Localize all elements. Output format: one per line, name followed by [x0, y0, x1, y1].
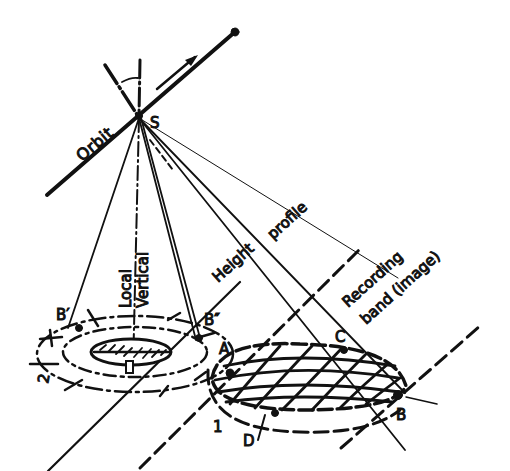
local-vertical-label-2: Vertical	[134, 252, 152, 308]
orbit-label: Orbit	[72, 123, 117, 165]
local-vertical-label-1: Local	[117, 269, 135, 308]
point-b-double-prime-label: B″	[204, 311, 220, 329]
tilted-view-axis	[105, 60, 140, 116]
oblique-footprint	[208, 344, 437, 440]
satellite-label: S	[150, 114, 160, 132]
local-vertical-line	[133, 118, 139, 370]
region-1-label: 1	[213, 418, 223, 436]
satellite-geometry-diagram: Orbit S Local Vertical Height profile Re…	[0, 0, 510, 471]
height-label: Height	[209, 239, 258, 286]
profile-label: profile	[264, 198, 311, 243]
point-a-label: A	[219, 340, 230, 358]
point-b-prime-label: B′	[56, 306, 70, 324]
slant-range-ray	[139, 118, 405, 393]
orbit-line	[47, 28, 239, 195]
point-d-label: D	[243, 432, 255, 450]
point-b-label: B	[396, 406, 406, 424]
point-c-label: C	[335, 328, 345, 346]
